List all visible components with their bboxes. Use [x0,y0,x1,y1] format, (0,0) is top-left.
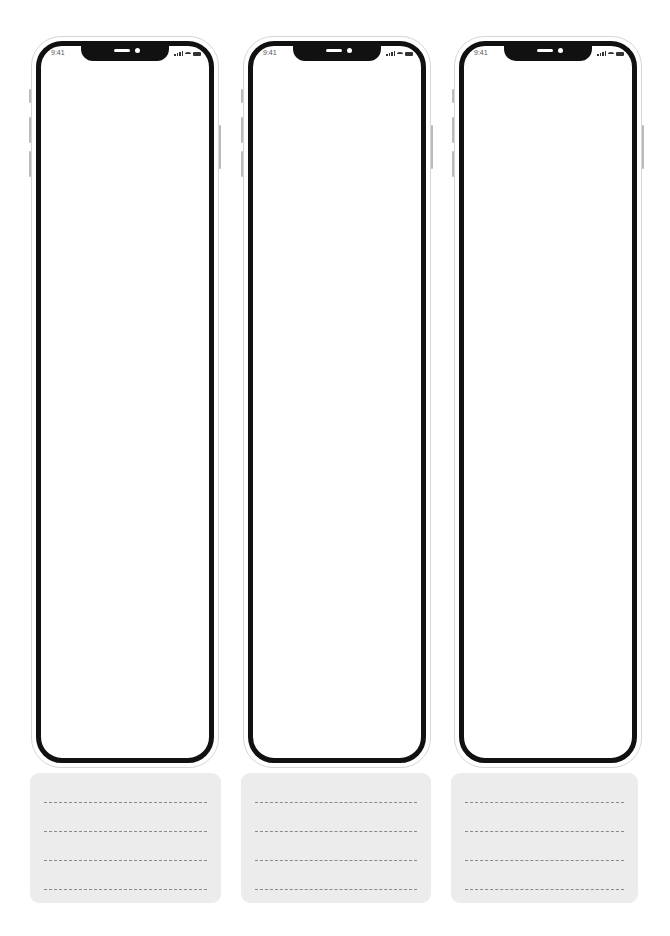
battery-icon [405,52,413,56]
note-line[interactable] [465,860,624,861]
power-button [431,125,433,169]
phone-mockup-2: 9:41 [243,36,431,768]
status-time: 9:41 [263,49,277,56]
mute-switch [29,89,31,103]
note-line[interactable] [465,889,624,890]
status-icons [386,51,413,56]
volume-up-button [241,117,243,143]
notch [504,45,592,61]
speaker-icon [326,49,342,52]
note-card-1 [30,773,221,903]
phone-mockup-3: 9:41 [454,36,642,768]
phone-mockup-1: 9:41 [31,36,219,768]
speaker-icon [114,49,130,52]
note-line[interactable] [465,802,624,803]
wifi-icon [397,52,403,56]
note-line[interactable] [255,889,417,890]
camera-icon [558,48,563,53]
battery-icon [193,52,201,56]
volume-up-button [29,117,31,143]
phone-screen: 9:41 [36,41,214,763]
camera-icon [347,48,352,53]
note-line[interactable] [44,889,207,890]
volume-down-button [452,151,454,177]
note-line[interactable] [44,860,207,861]
power-button [219,125,221,169]
status-time: 9:41 [51,49,65,56]
notch [293,45,381,61]
phone-screen: 9:41 [459,41,637,763]
wifi-icon [608,52,614,56]
status-time: 9:41 [474,49,488,56]
note-line[interactable] [255,831,417,832]
volume-down-button [241,151,243,177]
note-card-2 [241,773,431,903]
notch [81,45,169,61]
power-button [642,125,644,169]
signal-bars-icon [174,51,183,56]
status-icons [597,51,624,56]
phone-screen: 9:41 [248,41,426,763]
note-line[interactable] [465,831,624,832]
status-icons [174,51,201,56]
note-line[interactable] [255,860,417,861]
battery-icon [616,52,624,56]
volume-down-button [29,151,31,177]
volume-up-button [452,117,454,143]
signal-bars-icon [597,51,606,56]
note-line[interactable] [255,802,417,803]
speaker-icon [537,49,553,52]
note-line[interactable] [44,802,207,803]
wifi-icon [185,52,191,56]
camera-icon [135,48,140,53]
note-line[interactable] [44,831,207,832]
mute-switch [452,89,454,103]
signal-bars-icon [386,51,395,56]
note-card-3 [451,773,638,903]
mute-switch [241,89,243,103]
